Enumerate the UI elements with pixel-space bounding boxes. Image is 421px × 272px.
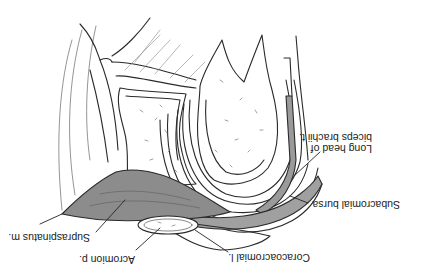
label-coracoacromial-ligament: Coracoacromial l.	[228, 252, 310, 264]
label-supraspinatus: Supraspinatus m.	[8, 232, 90, 244]
svg-text:Subacromial bursa: Subacromial bursa	[312, 199, 400, 211]
shoulder-anatomy-diagram: Long head of biceps brachii t. Subacromi…	[0, 0, 421, 272]
label-acromion: Acromion p.	[79, 254, 135, 266]
outer-contour-lines	[59, 26, 96, 210]
svg-text:Coracoacromial l.: Coracoacromial l.	[228, 252, 310, 264]
supraspinatus-muscle	[62, 170, 230, 221]
svg-text:Supraspinatus m.: Supraspinatus m.	[8, 232, 90, 244]
label-text: biceps brachii t.	[299, 132, 372, 144]
svg-text:Acromion p.: Acromion p.	[79, 254, 135, 266]
hatching-lines	[125, 30, 205, 82]
label-long-head-biceps: Long head of biceps brachii t.	[299, 132, 372, 155]
label-subacromial-bursa: Subacromial bursa	[312, 199, 400, 211]
humeral-head	[198, 35, 278, 184]
